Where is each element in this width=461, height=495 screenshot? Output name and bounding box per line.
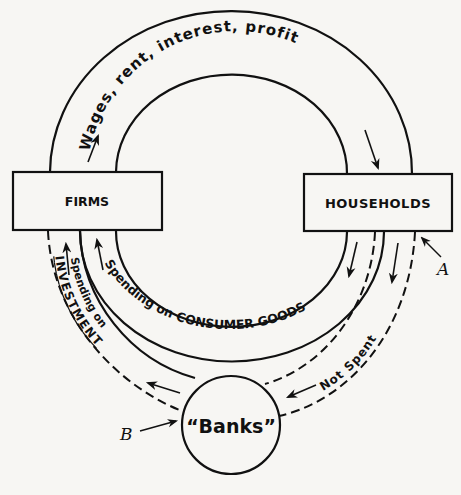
households-label: HOUSEHOLDS bbox=[325, 196, 431, 211]
marker-a-pointer-icon bbox=[422, 238, 441, 257]
saving-arrow-down-icon bbox=[392, 243, 398, 282]
saving-arrow-left-icon bbox=[288, 385, 316, 397]
circular-flow-diagram: Wages, rent, interest, profit Spending o… bbox=[0, 0, 461, 495]
income-flow-label: Wages, rent, interest, profit bbox=[76, 17, 302, 152]
firms-node: FIRMS bbox=[13, 172, 162, 230]
diagram-svg: Wages, rent, interest, profit Spending o… bbox=[0, 0, 461, 495]
consumption-arrow-down-icon bbox=[349, 242, 357, 276]
marker-b-pointer-icon bbox=[140, 421, 176, 431]
households-node: HOUSEHOLDS bbox=[304, 174, 452, 231]
saving-flow-label: Not Spent bbox=[317, 332, 380, 394]
income-arrow-down-icon bbox=[365, 130, 378, 168]
marker-a: A bbox=[422, 238, 449, 279]
investment-arrow-left-icon bbox=[148, 383, 180, 393]
firms-label: FIRMS bbox=[65, 194, 109, 209]
banks-node: “Banks” bbox=[182, 376, 280, 474]
consumption-flow-label: Spending on CONSUMER GOODS bbox=[102, 257, 308, 333]
marker-b: B bbox=[119, 421, 176, 444]
consumption-arrow-up-icon bbox=[97, 240, 103, 270]
consumption-flow-channel: Spending on CONSUMER GOODS bbox=[80, 231, 384, 362]
banks-label: “Banks” bbox=[186, 415, 276, 437]
marker-b-label: B bbox=[119, 424, 133, 444]
income-flow-channel: Wages, rent, interest, profit bbox=[50, 11, 412, 174]
marker-a-label: A bbox=[435, 259, 449, 279]
